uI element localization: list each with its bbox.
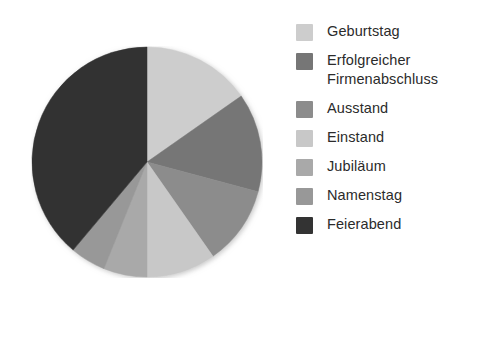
pie-slice-group xyxy=(32,47,262,277)
legend-item-label: Einstand xyxy=(327,128,384,147)
legend-item-label: Ausstand xyxy=(327,99,388,118)
legend-color-swatch xyxy=(296,53,313,70)
legend-color-swatch xyxy=(296,130,313,147)
legend-item-label: Namenstag xyxy=(327,186,402,205)
legend-color-swatch xyxy=(296,217,313,234)
legend-color-swatch xyxy=(296,24,313,41)
legend-color-swatch xyxy=(296,101,313,118)
legend-item[interactable]: Jubiläum xyxy=(296,157,492,176)
legend: GeburtstagErfolgreicher FirmenabschlussA… xyxy=(296,22,492,244)
legend-item-label: Jubiläum xyxy=(327,157,386,176)
legend-item[interactable]: Ausstand xyxy=(296,99,492,118)
legend-color-swatch xyxy=(296,159,313,176)
legend-item-label: Erfolgreicher Firmenabschluss xyxy=(327,51,438,89)
legend-item-label: Geburtstag xyxy=(327,22,400,41)
legend-item[interactable]: Erfolgreicher Firmenabschluss xyxy=(296,51,492,89)
pie-chart-svg xyxy=(31,46,263,278)
legend-item[interactable]: Geburtstag xyxy=(296,22,492,41)
legend-item-label: Feierabend xyxy=(327,215,401,234)
legend-item[interactable]: Einstand xyxy=(296,128,492,147)
legend-color-swatch xyxy=(296,188,313,205)
pie-chart-plot-area xyxy=(31,46,263,278)
pie-chart-figure: GeburtstagErfolgreicher FirmenabschlussA… xyxy=(0,0,495,340)
legend-item[interactable]: Namenstag xyxy=(296,186,492,205)
legend-item[interactable]: Feierabend xyxy=(296,215,492,234)
